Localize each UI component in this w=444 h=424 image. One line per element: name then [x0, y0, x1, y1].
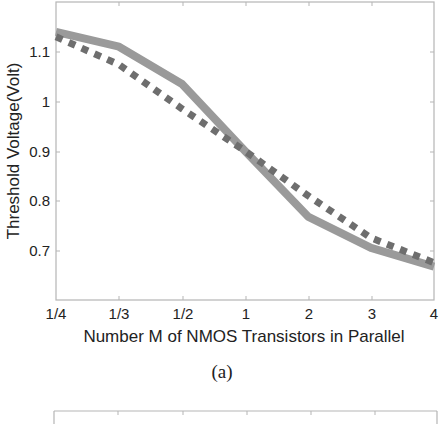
- xtick-3: 3: [368, 305, 376, 322]
- x-axis-label: Number M of NMOS Transistors in Parallel: [83, 327, 404, 346]
- second-chart-frame: [54, 411, 437, 424]
- xtick-2: 2: [305, 305, 313, 322]
- xtick-1: 1: [242, 305, 250, 322]
- xtick-1-4: 1/4: [46, 305, 67, 322]
- x-tick-labels: 1/4 1/3 1/2 1 2 3 4: [46, 305, 439, 322]
- ytick-0.8: 0.8: [29, 192, 50, 209]
- xtick-4: 4: [430, 305, 438, 322]
- y-axis-label: Threshold Voltage(Volt): [4, 63, 23, 240]
- y-tick-labels: 1.1 1 0.9 0.8 0.7: [29, 43, 50, 259]
- ytick-1.1: 1.1: [29, 43, 50, 60]
- ytick-0.9: 0.9: [29, 143, 50, 160]
- xtick-1-3: 1/3: [109, 305, 130, 322]
- ytick-0.7: 0.7: [29, 242, 50, 259]
- xtick-1-2: 1/2: [173, 305, 194, 322]
- threshold-voltage-chart: 1.1 1 0.9 0.8 0.7 1/4 1/3 1/2 1 2 3 4 Nu…: [0, 0, 444, 424]
- figure-caption: (a): [211, 361, 232, 383]
- ytick-1: 1: [42, 93, 50, 110]
